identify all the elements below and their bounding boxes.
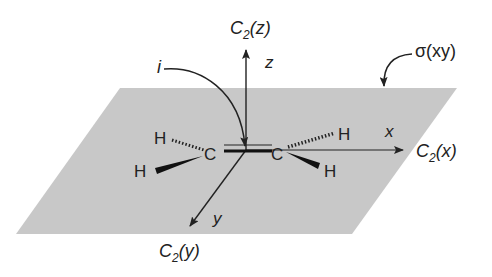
sigma-arrow: [384, 54, 412, 86]
label-c2y: C2(y): [159, 241, 200, 265]
label-sigma-xy: σ(xy): [415, 41, 456, 61]
atom-h-bottom-right: H: [324, 162, 336, 181]
ethylene-symmetry-diagram: C C H H H H C2(z) z i σ(xy) x C2(x) y C2…: [0, 0, 492, 277]
diagram-svg: C C H H H H C2(z) z i σ(xy) x C2(x) y C2…: [0, 0, 492, 277]
label-z: z: [264, 53, 274, 72]
atom-h-bottom-left: H: [134, 162, 146, 181]
atom-c-left: C: [204, 145, 216, 164]
label-x: x: [384, 122, 394, 141]
atom-h-top-left: H: [154, 129, 166, 148]
atom-h-top-right: H: [338, 125, 350, 144]
label-c2z: C2(z): [230, 18, 271, 42]
mirror-plane-xy: [16, 88, 457, 234]
atom-c-right: C: [271, 145, 283, 164]
label-i: i: [157, 57, 162, 77]
label-c2x: C2(x): [416, 141, 457, 165]
label-y: y: [212, 209, 223, 228]
